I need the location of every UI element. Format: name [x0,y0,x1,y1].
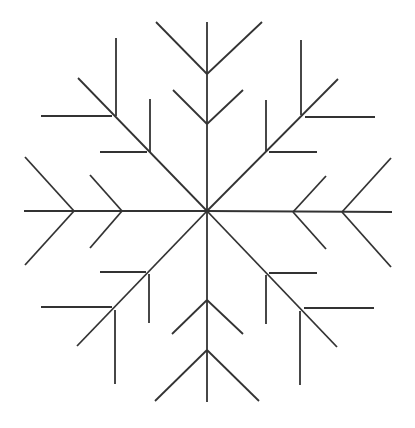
arm-line [207,79,338,211]
snowflake-arm-right [207,158,392,267]
arm-branch [173,90,207,124]
arm-line [207,211,337,347]
arm-branch [90,175,122,211]
arm-branch [207,300,243,334]
arm-branch [172,300,207,334]
arm-line [78,78,207,211]
snowflake-icon [0,0,415,428]
snowflake-arm-upper-left [41,38,207,211]
snowflake-arm-upper-right [207,40,375,211]
arm-branch [293,212,326,249]
snowflake-arm-left [24,157,207,265]
snowflake-arm-lower-left [41,211,207,384]
snowflake-arm-lower-right [207,211,374,385]
arm-line [207,211,392,212]
arm-branch [342,158,391,212]
arm-branch [90,211,122,248]
arm-branch [25,211,74,265]
arm-branch [156,22,207,74]
snowflake-arm-top [156,22,262,211]
drawing-canvas: Snowflake line drawing [0,0,415,428]
arm-branch [293,176,326,212]
arm-branch [25,157,74,211]
snowflake-arm-bottom [155,211,259,402]
arm-branch [207,22,262,74]
arm-branch [342,212,391,267]
arm-branch [155,350,207,401]
arm-line [77,211,207,346]
arm-branch [207,90,243,124]
arm-branch [207,350,259,401]
